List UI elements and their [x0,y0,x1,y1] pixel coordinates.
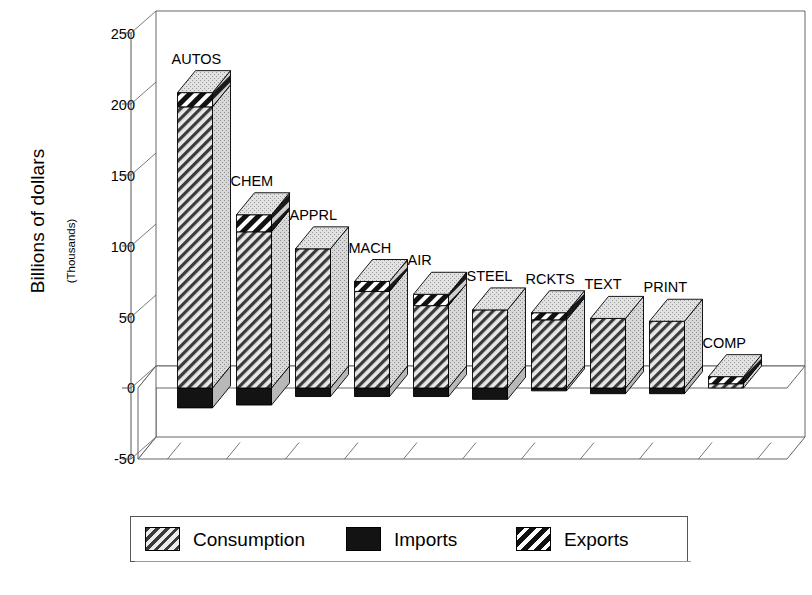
bar-print [650,299,703,393]
y-axis-depth-connector [131,295,156,317]
bar-segment-imports-front [178,388,213,408]
bar-label-mach: MACH [349,241,392,255]
bar-label-chem: CHEM [231,174,274,188]
bar-segment-imports-front [237,388,272,405]
bar-segment-imports-front [355,388,390,397]
bar-label-autos: AUTOS [172,52,222,66]
legend-item-exports: Exports [516,527,628,551]
bar-segment-consumption-side [213,85,231,388]
chart-figure: Billions of dollars (Thousands) 250 200 … [0,0,812,595]
legend-label-imports: Imports [394,530,457,549]
y-axis-depth-connector [131,11,156,33]
bar-rckts [532,291,585,391]
bar-label-rckts: RCKTS [526,272,575,286]
legend-swatch-imports [346,527,381,551]
legend-item-imports: Imports [346,527,457,551]
y-axis-depth-connector [131,153,156,175]
bar-segment-consumption-front [591,318,626,388]
chart-legend: Consumption Imports Exports [130,516,688,562]
bar-segment-exports-front [355,282,390,292]
bar-autos [178,71,231,408]
bar-segment-imports-front [591,388,626,394]
plot-area [0,0,812,500]
bar-segment-consumption-front [178,107,213,388]
bar-segment-consumption-front [296,249,331,388]
bar-segment-consumption-front [650,321,685,388]
bar-segment-exports-front [237,215,272,232]
bar-segment-consumption-front [473,310,508,388]
bar-segment-imports-front [473,388,508,399]
bar-label-apprl: APPRL [290,208,338,222]
bar-mach [355,260,408,397]
y-axis-depth-connector [131,82,156,104]
bar-steel [473,288,526,399]
bar-segment-consumption-side [331,227,349,388]
bar-segment-exports-front [709,377,744,384]
bar-segment-exports-front [414,294,449,305]
bar-segment-consumption-front [237,232,272,388]
bar-segment-consumption-front [414,306,449,388]
bar-label-text: TEXT [585,277,622,291]
bar-label-comp: COMP [703,336,747,350]
bar-air [414,272,467,396]
bar-segment-imports-front [414,388,449,397]
legend-swatch-consumption [145,527,180,551]
legend-label-exports: Exports [564,530,628,549]
bar-segment-consumption-front [709,384,744,388]
bar-chem [237,193,290,405]
bar-segment-exports-front [178,93,213,107]
legend-swatch-exports [516,527,551,551]
y-axis-depth-connector [131,224,156,246]
bar-segment-imports-front [296,388,331,397]
bar-label-steel: STEEL [467,269,513,283]
legend-item-consumption: Consumption [145,527,305,551]
bar-segment-exports-front [532,313,567,320]
bar-apprl [296,227,349,397]
bar-segment-consumption-front [355,291,390,388]
bar-label-air: AIR [408,253,432,267]
bar-label-print: PRINT [644,280,688,294]
bar-segment-consumption-front [532,320,567,388]
bar-segment-consumption-side [272,210,290,388]
legend-label-consumption: Consumption [193,530,305,549]
bar-text [591,296,644,393]
bar-segment-imports-front [650,388,685,394]
